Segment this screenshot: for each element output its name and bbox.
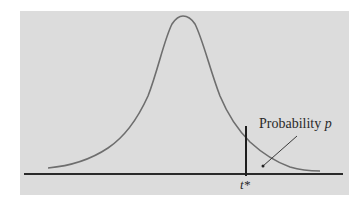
density-plot [0, 0, 361, 208]
density-curve [48, 16, 320, 171]
critical-value-label: t* [240, 177, 250, 193]
probability-var: p [325, 116, 332, 131]
annotation-leader-line [263, 136, 297, 166]
probability-text: Probability [259, 116, 321, 131]
annotation-dot [262, 165, 265, 168]
probability-label: Probability p [259, 116, 332, 132]
